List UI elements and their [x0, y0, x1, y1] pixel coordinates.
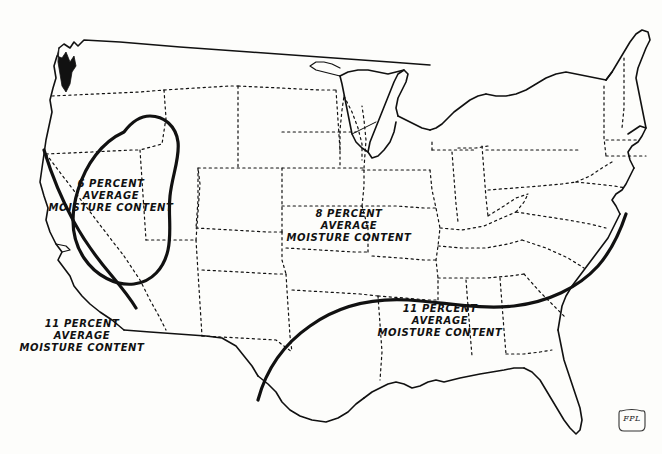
- zone-label-central-line2: AVERAGE: [274, 220, 424, 232]
- zone-label-west: 6 PERCENT AVERAGE MOISTURE CONTENT: [36, 178, 186, 215]
- zone-label-southeast-line3: MOISTURE CONTENT: [362, 327, 518, 339]
- zone-label-southeast: 11 PERCENT AVERAGE MOISTURE CONTENT: [362, 303, 518, 340]
- zone-label-central-line1: 8 PERCENT: [274, 208, 424, 220]
- moisture-content-map: 6 PERCENT AVERAGE MOISTURE CONTENT 8 PER…: [0, 0, 662, 454]
- fpl-badge-text: FPL: [616, 414, 648, 423]
- zone-label-southeast-line1: 11 PERCENT: [362, 303, 518, 315]
- zone-label-west-line3: MOISTURE CONTENT: [36, 202, 186, 214]
- moisture-content-contour: [44, 116, 626, 400]
- zone-label-west-line2: AVERAGE: [36, 190, 186, 202]
- zone-label-southwest-line3: MOISTURE CONTENT: [6, 342, 158, 354]
- zone-label-southwest-line1: 11 PERCENT: [6, 318, 158, 330]
- zone-label-southwest: 11 PERCENT AVERAGE MOISTURE CONTENT: [6, 318, 158, 355]
- zone-label-central-line3: MOISTURE CONTENT: [274, 232, 424, 244]
- fpl-shield-badge: FPL: [616, 406, 648, 434]
- zone-label-central: 8 PERCENT AVERAGE MOISTURE CONTENT: [274, 208, 424, 245]
- zone-label-west-line1: 6 PERCENT: [36, 178, 186, 190]
- zone-label-southeast-line2: AVERAGE: [362, 315, 518, 327]
- zone-label-southwest-line2: AVERAGE: [6, 330, 158, 342]
